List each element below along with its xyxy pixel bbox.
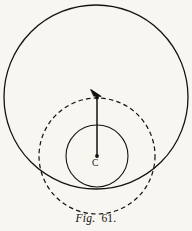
radius-top-dot [95, 96, 99, 100]
figure-caption-prefix: Fig. [76, 212, 96, 224]
figure-caption-number: 61. [101, 212, 116, 224]
figure-container: C Fig. 61. [0, 0, 192, 231]
figure-drawing [0, 0, 192, 231]
figure-caption: Fig. 61. [0, 212, 192, 224]
center-point-label: C [92, 159, 98, 169]
